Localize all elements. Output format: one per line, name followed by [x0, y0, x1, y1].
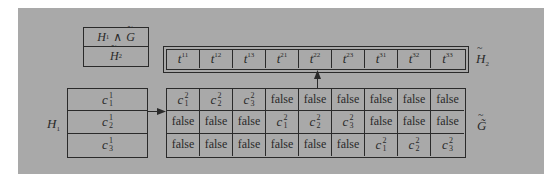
- g-table-cell: c23: [431, 134, 464, 156]
- h2-cell-var: t31: [376, 51, 387, 67]
- g-table-cell: false: [167, 111, 200, 133]
- h2-strip: t11t12t13t21t22t23t31t32t33: [166, 49, 466, 70]
- legend-top-g: G: [126, 30, 135, 45]
- h2-cell-sub: 32: [412, 51, 419, 59]
- g-table-cell: c22: [200, 89, 233, 111]
- h2-cell-sub: 11: [181, 51, 188, 59]
- h2-cell-t12: t12: [200, 50, 233, 68]
- g-cell-supsub: 21: [382, 137, 386, 153]
- g-table-cell: c23: [332, 111, 365, 133]
- h2-cell-sub: 22: [313, 51, 320, 59]
- h2-cell-t31: t31: [365, 50, 398, 68]
- g-cell-var: c23: [244, 92, 255, 108]
- h1-label-h: H: [47, 116, 56, 131]
- h2-strip-label-sub: 2: [485, 60, 489, 68]
- g-cell-text: false: [304, 137, 327, 152]
- g-table-cell: c21: [365, 134, 398, 156]
- g-table-cell: false: [365, 111, 398, 133]
- arrow-right-icon: [157, 107, 166, 116]
- h2-cell-var: t11: [178, 51, 188, 67]
- g-cell-sub: 3: [250, 100, 254, 108]
- g-cell-var-base: c: [343, 114, 349, 130]
- g-table-cell: false: [431, 111, 464, 133]
- g-cell-text: false: [403, 114, 426, 129]
- g-cell-supsub: 21: [184, 92, 188, 108]
- g-cell-sub: 1: [184, 100, 188, 108]
- g-table-cell: false: [365, 89, 398, 111]
- h2-cell-sub: 31: [379, 51, 386, 59]
- legend-bottom-h-sub: 2: [119, 52, 123, 60]
- h2-cell-var: t21: [277, 51, 288, 67]
- g-table-cell: false: [332, 134, 365, 156]
- g-cell-var: c21: [178, 92, 189, 108]
- h1-row-var: c12: [102, 114, 113, 130]
- h2-cell-var: t13: [244, 51, 255, 67]
- h2-cell-t11: t11: [167, 50, 200, 68]
- g-cell-var-base: c: [310, 114, 316, 130]
- g-cell-text: false: [370, 92, 393, 107]
- g-cell-text: false: [271, 92, 294, 107]
- g-cell-supsub: 23: [449, 137, 453, 153]
- g-table-cell: false: [299, 89, 332, 111]
- legend-top-h-sub: 1: [106, 33, 110, 41]
- g-cell-sub: 2: [415, 145, 419, 153]
- g-cell-var: c23: [343, 114, 354, 130]
- h2-cell-t33: t33: [431, 50, 464, 68]
- g-cell-supsub: 23: [349, 114, 353, 130]
- h2-cell-t32: t32: [398, 50, 431, 68]
- g-table-cell: false: [332, 89, 365, 111]
- g-cell-sub: 2: [217, 100, 221, 108]
- h1-row-supsub: 12: [109, 114, 113, 130]
- g-cell-var-base: c: [244, 92, 250, 108]
- h2-cell-var: t23: [343, 51, 354, 67]
- h2-cell-sub: 12: [214, 51, 221, 59]
- g-cell-text: false: [436, 92, 459, 107]
- g-table-cell: false: [200, 134, 233, 156]
- legend-top-h: H: [97, 30, 106, 45]
- h1-row: c12: [68, 111, 147, 133]
- g-table-cell: false: [266, 134, 299, 156]
- h2-cell-sub: 13: [247, 51, 254, 59]
- h2-cell-t22: t22: [299, 50, 332, 68]
- h2-cell-t13: t13: [233, 50, 266, 68]
- arrow-up-icon: [313, 70, 322, 79]
- legend-box: H1 ∧ G H2: [83, 27, 149, 67]
- h2-cell-var: t12: [211, 51, 222, 67]
- legend-bottom-h: H: [110, 49, 119, 64]
- g-cell-supsub: 22: [217, 92, 221, 108]
- g-cell-var: c21: [277, 114, 288, 130]
- h2-cell-sub: 33: [446, 51, 453, 59]
- h1-row-var: c13: [102, 137, 113, 153]
- g-cell-sub: 3: [449, 145, 453, 153]
- g-cell-var: c22: [310, 114, 321, 130]
- g-cell-var-base: c: [277, 114, 283, 130]
- g-table-cell: c22: [299, 111, 332, 133]
- h2-cell-t23: t23: [332, 50, 365, 68]
- g-cell-var: c22: [409, 137, 420, 153]
- h2-cell-var: t22: [310, 51, 321, 67]
- h1-row: c13: [68, 134, 147, 156]
- h1-label-sub: 1: [56, 125, 60, 133]
- g-table-cell: c23: [233, 89, 266, 111]
- legend-bottom-cell: H2: [84, 47, 148, 65]
- g-cell-text: false: [304, 92, 327, 107]
- g-cell-text: false: [436, 114, 459, 129]
- g-cell-var: c21: [376, 137, 387, 153]
- h1-row-sub: 2: [109, 122, 113, 130]
- g-cell-sub: 1: [382, 145, 386, 153]
- g-cell-var-base: c: [178, 92, 184, 108]
- g-table-label: G̃: [477, 118, 486, 134]
- g-cell-var-base: c: [211, 92, 217, 108]
- g-cell-var-base: c: [376, 137, 382, 153]
- g-table-cell: c22: [398, 134, 431, 156]
- h1-table: c11c12c13: [67, 88, 148, 158]
- g-table: c21c22c23falsefalsefalsefalsefalsefalsef…: [166, 88, 466, 158]
- h1-row-sub: 3: [109, 145, 113, 153]
- h2-cell-var: t33: [442, 51, 453, 67]
- h1-row-var: c11: [102, 92, 113, 108]
- g-cell-text: false: [271, 137, 294, 152]
- g-cell-text: false: [403, 92, 426, 107]
- h1-row-supsub: 13: [109, 137, 113, 153]
- h1-row-sub: 1: [109, 100, 113, 108]
- g-cell-sub: 2: [316, 122, 320, 130]
